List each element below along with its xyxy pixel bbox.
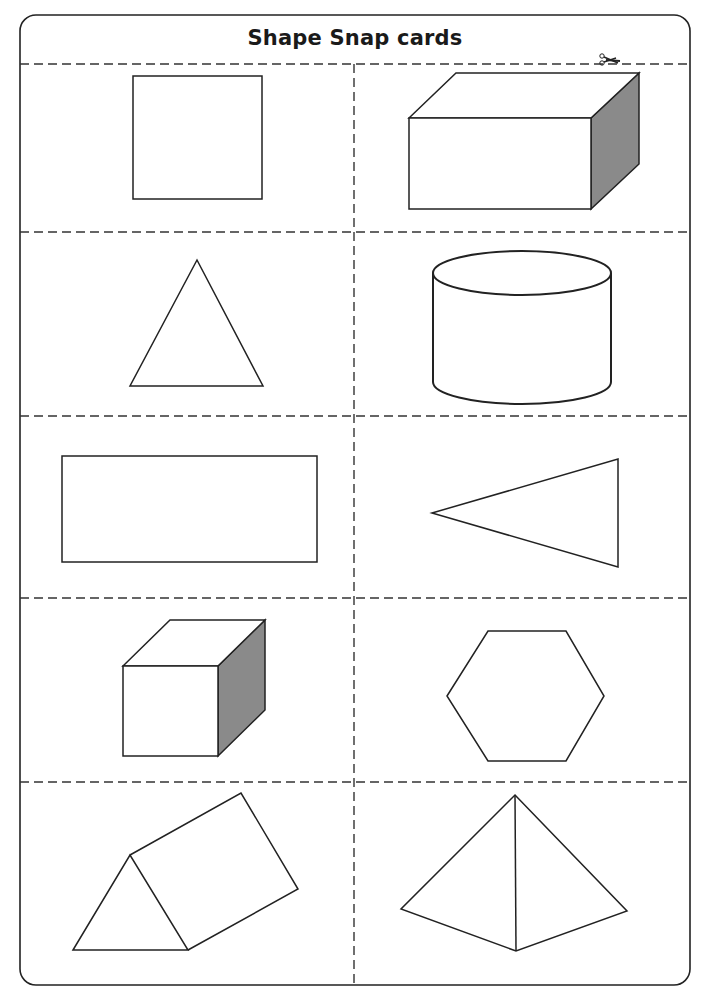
shape-triangular-prism <box>73 793 298 950</box>
shape-triangle-rotated <box>432 459 618 567</box>
shape-cylinder <box>433 251 611 404</box>
shape-triangle <box>130 260 263 386</box>
cards-grid <box>0 0 707 989</box>
shape-cube <box>123 620 265 756</box>
shape-rectangle <box>62 456 317 562</box>
shape-pyramid <box>401 795 627 951</box>
shape-hexagon <box>447 631 604 761</box>
shape-cuboid <box>409 73 639 209</box>
shape-square <box>133 76 262 199</box>
worksheet: Shape Snap cards <box>0 0 707 989</box>
